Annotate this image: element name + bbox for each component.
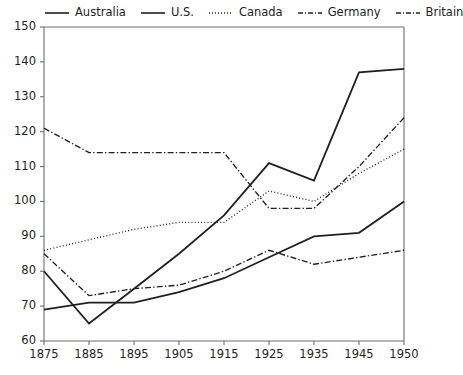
- y-axis-tick-label: 110: [6, 161, 36, 173]
- y-axis-tick-label: 140: [6, 56, 36, 68]
- y-axis-ticks: [40, 27, 44, 341]
- x-axis-tick-label: 1935: [290, 349, 338, 361]
- y-axis-tick-label: 150: [6, 21, 36, 33]
- series-line-australia: [44, 201, 404, 309]
- y-axis-tick-label: 100: [6, 195, 36, 207]
- y-axis-tick-label: 120: [6, 126, 36, 138]
- axes: [44, 27, 404, 341]
- x-axis-tick-label: 1925: [245, 349, 293, 361]
- legend-label-britain: Britain: [426, 7, 463, 19]
- x-axis-tick-label: 1945: [335, 349, 383, 361]
- x-axis-tick-label: 1875: [20, 349, 68, 361]
- y-axis-tick-label: 130: [6, 91, 36, 103]
- y-axis-tick-label: 70: [6, 300, 36, 312]
- x-axis-ticks: [44, 341, 404, 345]
- series-line-germany: [44, 250, 404, 295]
- x-axis-tick-label: 1905: [155, 349, 203, 361]
- x-axis-tick-label: 1950: [380, 349, 428, 361]
- series-line-britain: [44, 118, 404, 209]
- y-axis-tick-label: 80: [6, 265, 36, 277]
- series-line-us: [44, 69, 404, 324]
- x-axis-tick-label: 1915: [200, 349, 248, 361]
- series-line-canada: [44, 149, 404, 250]
- data-series: [44, 69, 404, 324]
- y-axis-tick-label: 90: [6, 230, 36, 242]
- y-axis-tick-label: 60: [6, 335, 36, 347]
- x-axis-tick-label: 1885: [65, 349, 113, 361]
- x-axis-tick-label: 1895: [110, 349, 158, 361]
